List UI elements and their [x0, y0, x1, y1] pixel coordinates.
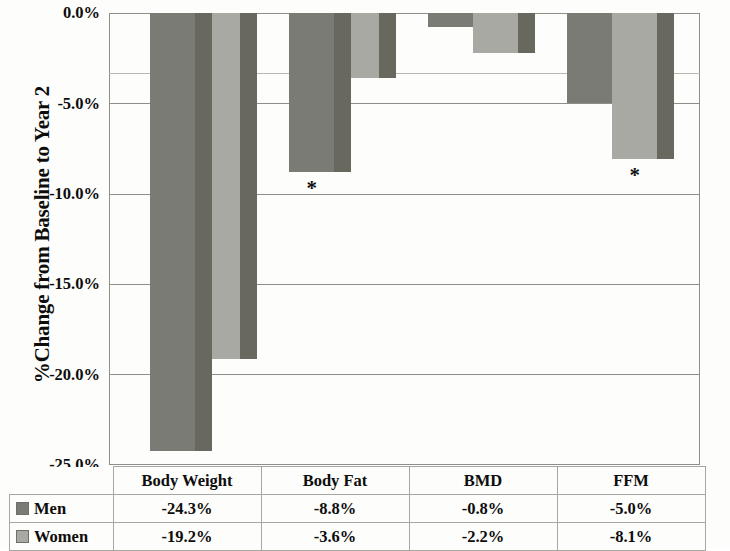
bar-men-body-weight [150, 13, 195, 451]
bar-depth-body-weight [240, 13, 257, 359]
y-tick-label-1: -5.0% [57, 94, 100, 114]
table-cell-men-bmd: -0.8% [409, 495, 557, 523]
bar-depth-men-body-weight [195, 13, 212, 451]
table-cell-men-body-weight: -24.3% [113, 495, 261, 523]
table-corner-cell [10, 467, 114, 495]
table-row: Men -24.3% -8.8% -0.8% -5.0% [10, 495, 706, 523]
plot-right-border [699, 13, 700, 465]
table-col-header-1: Body Fat [261, 467, 409, 495]
table-cell-women-bmd: -2.2% [409, 523, 557, 551]
bar-women-ffm [612, 13, 657, 159]
bar-depth-bmd [518, 13, 535, 53]
y-tick-label-4: -20.0% [49, 365, 100, 385]
legend-swatch-women-icon [16, 530, 29, 543]
bar-women-bmd [473, 13, 518, 53]
plot-area: ** [109, 13, 700, 465]
table-col-header-0: Body Weight [113, 467, 261, 495]
significance-star-body-fat: * [307, 178, 318, 199]
y-tick-label-2: -10.0% [49, 184, 100, 204]
data-table: Body Weight Body Fat BMD FFM Men -24.3% … [9, 466, 706, 551]
legend-label-women: Women [34, 527, 88, 546]
significance-star-ffm: * [630, 165, 641, 186]
table-cell-men-ffm: -5.0% [557, 495, 705, 523]
table-cell-men-body-fat: -8.8% [261, 495, 409, 523]
table-col-header-3: FFM [557, 467, 705, 495]
table-cell-women-body-weight: -19.2% [113, 523, 261, 551]
bar-depth-ffm [657, 13, 674, 159]
bar-men-ffm [567, 13, 612, 103]
bar-depth-body-fat [379, 13, 396, 78]
bar-men-body-fat [289, 13, 334, 172]
y-axis-line [109, 13, 110, 465]
bar-men-bmd [428, 13, 473, 27]
table-header-row: Body Weight Body Fat BMD FFM [10, 467, 706, 495]
y-tick-label-3: -15.0% [49, 274, 100, 294]
legend-item-women: Women [10, 523, 114, 551]
table-cell-women-body-fat: -3.6% [261, 523, 409, 551]
y-axis-tick-labels: 0.0% -5.0% -10.0% -15.0% -20.0% -25.0% [0, 0, 106, 470]
legend-label-men: Men [34, 499, 66, 518]
y-tick-label-0: 0.0% [63, 3, 100, 23]
table-row: Women -19.2% -3.6% -2.2% -8.1% [10, 523, 706, 551]
legend-swatch-men-icon [16, 502, 29, 515]
bar-depth-men-body-fat [334, 13, 351, 172]
gridline-25 [109, 464, 700, 465]
table-cell-women-ffm: -8.1% [557, 523, 705, 551]
legend-item-men: Men [10, 495, 114, 523]
table-col-header-2: BMD [409, 467, 557, 495]
